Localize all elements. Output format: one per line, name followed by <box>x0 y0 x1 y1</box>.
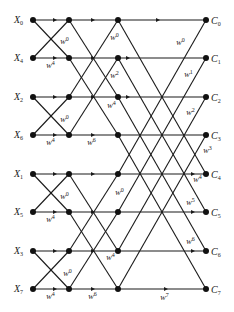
output-label-c4: C4 <box>211 169 221 181</box>
twiddle-label: W4 <box>46 214 55 224</box>
twiddle-label: W0 <box>60 191 69 201</box>
twiddle-label: W4 <box>193 174 202 184</box>
twiddle-label: W4 <box>106 252 115 262</box>
twiddle-label: W4 <box>46 137 55 147</box>
output-label-c5: C5 <box>211 207 221 219</box>
twiddle-label: W0 <box>63 268 72 278</box>
twiddle-label: W3 <box>203 145 212 155</box>
input-label-x1: X1 <box>13 168 23 180</box>
input-label-x0: X0 <box>13 14 23 26</box>
output-label-c3: C3 <box>211 130 221 142</box>
twiddle-label: W0 <box>115 187 124 197</box>
twiddle-label: W4 <box>46 291 55 301</box>
input-label-x5: X5 <box>13 206 23 218</box>
output-label-c0: C0 <box>211 15 221 27</box>
output-label-c6: C6 <box>211 246 221 258</box>
twiddle-label: W0 <box>176 37 185 47</box>
input-label-x2: X2 <box>13 91 23 103</box>
output-label-c2: C2 <box>211 92 221 104</box>
twiddle-labels-stage2: W0 W2 W4 W6 W0 W4 W6 <box>87 32 124 301</box>
input-label-x6: X6 <box>13 129 23 141</box>
output-label-c7: C7 <box>211 284 221 296</box>
twiddle-label: W1 <box>184 69 193 79</box>
twiddle-label: W4 <box>107 100 116 110</box>
twiddle-label: W0 <box>60 114 69 124</box>
twiddle-label: W4 <box>46 60 55 70</box>
twiddle-label: W6 <box>87 137 96 147</box>
output-labels: C0 C1 C2 C3 C4 C5 C6 C7 <box>211 15 221 296</box>
twiddle-label: W6 <box>186 236 195 246</box>
input-label-x4: X4 <box>13 52 23 64</box>
twiddle-label: W0 <box>60 36 69 46</box>
output-label-c1: C1 <box>211 53 221 65</box>
fft-butterfly-diagram: X0 X4 X2 X6 X1 X5 X3 X7 C0 C1 C2 C3 C4 C… <box>0 0 234 312</box>
twiddle-label: W6 <box>88 291 97 301</box>
twiddle-label: W2 <box>186 107 195 117</box>
input-label-x3: X3 <box>13 245 23 257</box>
twiddle-label: W0 <box>110 32 119 42</box>
twiddle-label: W7 <box>160 292 169 302</box>
input-labels: X0 X4 X2 X6 X1 X5 X3 X7 <box>13 14 23 295</box>
twiddle-label: W5 <box>186 197 195 207</box>
twiddle-label: W2 <box>110 70 119 80</box>
input-label-x7: X7 <box>13 283 23 295</box>
